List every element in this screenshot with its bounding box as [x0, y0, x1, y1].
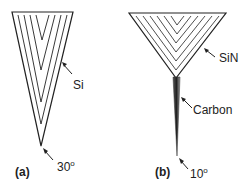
carbon-label: Carbon	[193, 104, 232, 116]
carbon-spike	[173, 77, 180, 156]
angle-b-label: 10o	[190, 167, 208, 180]
sin-label: SiN	[219, 52, 238, 64]
tip-b-arrow	[179, 158, 188, 169]
panel-a-label: (a)	[15, 166, 30, 178]
angle-b-degree: o	[203, 166, 207, 175]
angle-b-value: 10	[190, 167, 203, 181]
si-label: Si	[73, 79, 84, 91]
angle-a-value: 30	[57, 160, 70, 174]
angle-a-label: 30o	[57, 160, 75, 173]
carbon-arrow	[181, 97, 192, 108]
sin-arrow	[204, 48, 215, 57]
afm-tip-diagram: Si 30o (a) SiN Carbon 10o (b)	[0, 0, 247, 189]
panel-b-label: (b)	[155, 166, 170, 178]
si-arrow	[62, 62, 72, 74]
sin-tip-drawing	[129, 13, 226, 78]
si-tip-drawing	[12, 12, 73, 146]
tip-a-arrow	[43, 148, 53, 160]
angle-a-degree: o	[70, 159, 74, 168]
